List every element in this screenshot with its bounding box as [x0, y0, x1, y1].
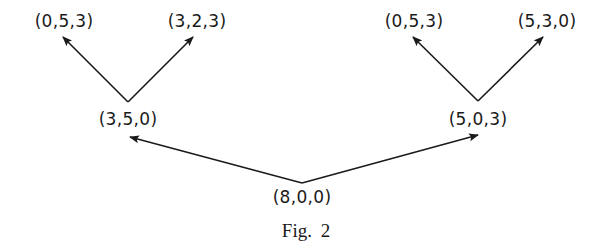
edge-right-mid-to-left-leaf-arrow [413, 37, 478, 101]
node-right-mid: (5,0,3) [449, 111, 508, 128]
edge-root-to-left-mid-arrow [130, 137, 302, 183]
figure-caption: Fig. 2 [282, 221, 330, 240]
tree-edges [0, 0, 609, 246]
node-root: (8,0,0) [273, 189, 332, 206]
node-left-left-leaf: (0,5,3) [35, 13, 94, 30]
node-left-mid: (3,5,0) [99, 111, 158, 128]
edge-left-mid-to-right-leaf-arrow [128, 37, 193, 102]
edge-left-mid-to-left-leaf-arrow [63, 37, 128, 102]
edge-right-mid-to-right-leaf-arrow [478, 37, 543, 101]
figure-canvas: (0,5,3) (3,2,3) (0,5,3) (5,3,0) (3,5,0) … [0, 0, 609, 246]
edge-root-to-right-mid-arrow [302, 135, 478, 183]
node-left-right-leaf: (3,2,3) [168, 13, 227, 30]
node-right-right-leaf: (5,3,0) [518, 13, 577, 30]
node-right-left-leaf: (0,5,3) [385, 13, 444, 30]
